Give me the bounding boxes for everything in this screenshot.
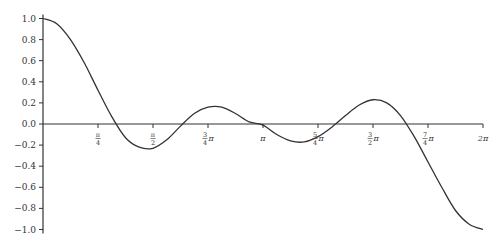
y-tick-label: 1.0 — [22, 14, 37, 24]
line-chart: 1.00.80.60.40.20.0−0.2−0.4−0.6−0.8−1.0 π… — [0, 0, 501, 247]
svg-text:4: 4 — [313, 139, 317, 147]
x-tick-label: 74π — [423, 131, 435, 147]
x-tick-label: 32π — [368, 131, 380, 147]
svg-text:2: 2 — [368, 139, 372, 147]
y-tick-label: −0.4 — [14, 161, 36, 171]
svg-text:4: 4 — [423, 139, 427, 147]
svg-text:π: π — [373, 134, 380, 143]
svg-text:π: π — [428, 134, 435, 143]
y-tick-label: 0.2 — [22, 98, 36, 108]
y-tick-label: −0.6 — [14, 182, 36, 192]
y-tick-label: 0.4 — [22, 77, 37, 87]
svg-text:2π: 2π — [477, 134, 489, 143]
y-tick-label: 0.8 — [22, 35, 37, 45]
x-tick-label: π4 — [96, 131, 101, 147]
x-tick-label: 2π — [477, 134, 489, 143]
y-tick-label: −1.0 — [14, 225, 36, 235]
svg-text:π: π — [259, 134, 266, 143]
svg-text:4: 4 — [96, 139, 100, 147]
svg-text:π: π — [208, 134, 215, 143]
y-tick-label: −0.2 — [14, 140, 36, 150]
y-tick-label: −0.8 — [14, 203, 36, 213]
x-tick-label: π2 — [151, 131, 156, 147]
svg-text:2: 2 — [151, 139, 155, 147]
x-tick-label: π — [259, 134, 266, 143]
svg-text:4: 4 — [203, 139, 207, 147]
x-tick-label: 34π — [203, 131, 215, 147]
y-tick-label: 0.0 — [22, 119, 37, 129]
y-axis: 1.00.80.60.40.20.0−0.2−0.4−0.6−0.8−1.0 — [14, 14, 43, 235]
y-tick-label: 0.6 — [22, 56, 37, 66]
